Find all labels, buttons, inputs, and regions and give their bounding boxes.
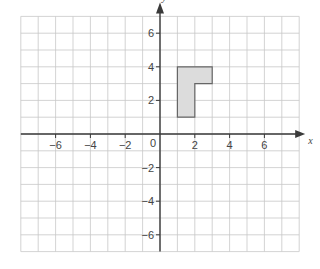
x-tick-label: 2 bbox=[192, 139, 198, 151]
y-axis-arrow-icon bbox=[156, 2, 164, 13]
y-tick-label: 6 bbox=[148, 27, 154, 39]
x-tick-label: 6 bbox=[261, 139, 267, 151]
x-tick-label: −4 bbox=[84, 139, 97, 151]
x-axis-arrow-icon bbox=[295, 130, 305, 138]
y-axis-label: y bbox=[161, 0, 167, 3]
y-tick-label: 4 bbox=[148, 61, 154, 73]
y-tick-label: −4 bbox=[141, 195, 154, 207]
x-tick-label: −2 bbox=[119, 139, 132, 151]
x-axis-label: x bbox=[307, 135, 313, 146]
coordinate-grid: xy0−6−4−2246642−2−4−6 bbox=[0, 0, 320, 269]
l-shape bbox=[177, 67, 212, 117]
x-tick-label: 4 bbox=[227, 139, 233, 151]
y-tick-label: −2 bbox=[141, 162, 154, 174]
y-tick-label: 2 bbox=[148, 94, 154, 106]
x-tick-label: −6 bbox=[49, 139, 62, 151]
origin-label: 0 bbox=[150, 137, 156, 149]
y-tick-label: −6 bbox=[141, 229, 154, 241]
